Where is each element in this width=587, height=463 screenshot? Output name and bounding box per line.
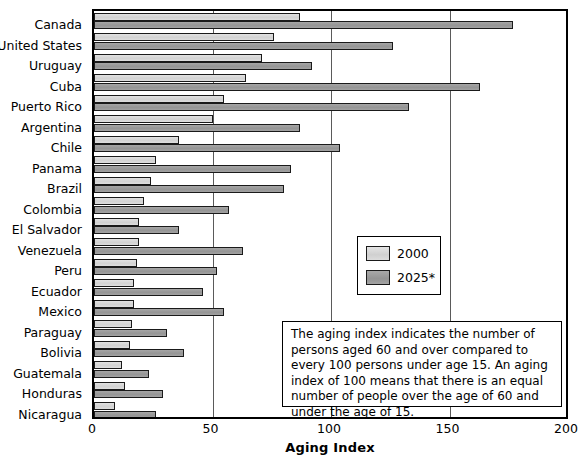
x-tick-label-100: 100 xyxy=(317,421,341,436)
bar-2000-panama xyxy=(94,156,156,164)
bar-2000-mexico xyxy=(94,300,134,308)
category-label-uruguay: Uruguay xyxy=(29,59,82,72)
bar-2025-argentina xyxy=(94,124,300,132)
x-tick-label-200: 200 xyxy=(554,421,578,436)
bar-2025-canada xyxy=(94,21,513,29)
legend-item-2025: 2025* xyxy=(366,268,435,286)
category-label-cuba: Cuba xyxy=(50,80,82,93)
bar-2025-peru xyxy=(94,267,217,275)
bar-2000-el-salvador xyxy=(94,218,139,226)
light-gray-swatch-icon xyxy=(366,246,390,261)
bar-2000-nicaragua xyxy=(94,402,115,410)
category-label-canada: Canada xyxy=(34,18,82,31)
bar-2000-canada xyxy=(94,13,300,21)
bar-2025-cuba xyxy=(94,83,480,91)
bar-2000-puerto-rico xyxy=(94,95,224,103)
bar-2025-panama xyxy=(94,165,291,173)
bar-2025-uruguay xyxy=(94,62,312,70)
category-axis-labels: CanadaUnited StatesUruguayCubaPuerto Ric… xyxy=(0,9,88,419)
bar-2025-guatemala xyxy=(94,370,149,378)
bar-2000-colombia xyxy=(94,197,144,205)
category-label-colombia: Colombia xyxy=(23,203,82,216)
category-label-puerto-rico: Puerto Rico xyxy=(11,100,82,113)
x-tick-label-0: 0 xyxy=(88,421,96,436)
legend: 2000 2025* xyxy=(357,236,441,295)
bar-2025-united-states xyxy=(94,42,393,50)
note-text: The aging index indicates the number of … xyxy=(291,327,553,421)
category-label-nicaragua: Nicaragua xyxy=(18,408,82,421)
aging-index-chart-figure: CanadaUnited StatesUruguayCubaPuerto Ric… xyxy=(0,0,587,463)
bar-2025-el-salvador xyxy=(94,226,179,234)
bar-2000-paraguay xyxy=(94,320,132,328)
category-label-united-states: United States xyxy=(0,39,82,52)
bar-2000-venezuela xyxy=(94,238,139,246)
category-label-chile: Chile xyxy=(51,141,82,154)
bar-2000-united-states xyxy=(94,33,274,41)
bar-2000-brazil xyxy=(94,177,151,185)
category-label-paraguay: Paraguay xyxy=(24,326,82,339)
category-label-el-salvador: El Salvador xyxy=(12,223,82,236)
bar-2000-guatemala xyxy=(94,361,122,369)
bar-2000-uruguay xyxy=(94,54,262,62)
note-box: The aging index indicates the number of … xyxy=(282,321,562,407)
category-label-honduras: Honduras xyxy=(22,387,82,400)
bar-2025-ecuador xyxy=(94,288,203,296)
category-label-argentina: Argentina xyxy=(21,121,82,134)
bar-2025-honduras xyxy=(94,390,163,398)
bar-2025-chile xyxy=(94,144,340,152)
bar-2000-bolivia xyxy=(94,341,130,349)
bar-2025-venezuela xyxy=(94,247,243,255)
category-label-mexico: Mexico xyxy=(38,305,82,318)
bar-2000-honduras xyxy=(94,382,125,390)
bar-2000-argentina xyxy=(94,115,213,123)
x-tick-label-50: 50 xyxy=(203,421,219,436)
category-label-bolivia: Bolivia xyxy=(40,346,82,359)
legend-label-2025: 2025* xyxy=(397,270,435,285)
bar-2025-colombia xyxy=(94,206,229,214)
bar-2025-mexico xyxy=(94,308,224,316)
bar-2000-peru xyxy=(94,259,137,267)
x-axis-title: Aging Index xyxy=(92,440,568,455)
category-label-venezuela: Venezuela xyxy=(18,244,82,257)
category-label-brazil: Brazil xyxy=(47,182,82,195)
category-label-peru: Peru xyxy=(54,264,82,277)
legend-label-2000: 2000 xyxy=(397,246,429,261)
legend-item-2000: 2000 xyxy=(366,244,429,262)
category-label-ecuador: Ecuador xyxy=(31,285,82,298)
bar-2025-nicaragua xyxy=(94,411,156,419)
x-tick-label-150: 150 xyxy=(436,421,460,436)
bar-2025-puerto-rico xyxy=(94,103,409,111)
bar-2000-ecuador xyxy=(94,279,134,287)
x-axis-tick-labels: 050100150200 xyxy=(0,421,587,439)
bar-2025-bolivia xyxy=(94,349,184,357)
bar-2000-cuba xyxy=(94,74,246,82)
dark-gray-swatch-icon xyxy=(366,270,390,285)
category-label-guatemala: Guatemala xyxy=(13,367,82,380)
bar-2025-paraguay xyxy=(94,329,167,337)
category-label-panama: Panama xyxy=(32,162,82,175)
bar-2025-brazil xyxy=(94,185,284,193)
bar-2000-chile xyxy=(94,136,179,144)
